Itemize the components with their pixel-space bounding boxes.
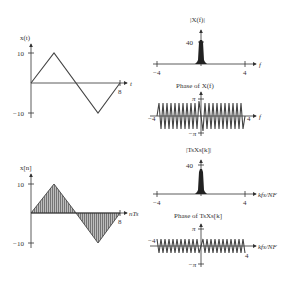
- signal-spectra-figure: x(t) 10 −10 t 8 |X(f)| 40 −4 4 f Phase o…: [0, 0, 292, 285]
- phaseXs-plot: Phase of TsXs[k] π −π −4 4 kfs/NF: [148, 212, 277, 269]
- xn-ytick-10: 10: [17, 181, 25, 189]
- xt-ytick-neg10: −10: [13, 110, 24, 118]
- phaseXs-xtick-4: 4: [245, 252, 249, 260]
- xn-xlabel: nTs: [129, 210, 139, 218]
- phaseXs-xtick-neg4: −4: [148, 237, 156, 245]
- phaseX-ytick-negpi: −π: [188, 130, 197, 138]
- phaseX-plot: Phase of X(f) π −π −4 4 f: [148, 82, 262, 138]
- magX-peak: [195, 40, 207, 64]
- xn-negative-samples: [76, 213, 120, 243]
- phaseX-xtick-4: 4: [247, 115, 251, 123]
- magX-xtick-neg4: −4: [153, 69, 161, 77]
- magXs-xlabel: kfs/NF: [258, 191, 277, 199]
- phaseX-title: Phase of X(f): [176, 82, 214, 90]
- magXs-xtick-4: 4: [243, 199, 247, 207]
- xt-xlabel: t: [130, 80, 133, 88]
- magX-xtick-4: 4: [243, 69, 247, 77]
- phaseXs-ytick-pi: π: [192, 225, 196, 233]
- xn-positive-samples: [31, 184, 76, 213]
- xt-xtick-8: 8: [118, 88, 122, 96]
- magXs-plot: |TsXs[k]| 40 −4 4 kfs/NF: [153, 146, 277, 207]
- xn-xtick-8: 8: [118, 218, 122, 226]
- phaseX-xlabel: f: [259, 113, 262, 121]
- xn-ytick-neg10: −10: [13, 240, 24, 248]
- xn-ylabel: x[n]: [20, 164, 32, 172]
- magXs-ytick-40: 40: [186, 162, 194, 170]
- xt-ytick-10: 10: [17, 50, 25, 58]
- phaseXs-title: Phase of TsXs[k]: [174, 212, 222, 220]
- phaseXs-ytick-negpi: −π: [188, 261, 197, 269]
- magXs-xtick-neg4: −4: [153, 199, 161, 207]
- phaseX-ytick-pi: π: [192, 95, 196, 103]
- magX-title: |X(f)|: [190, 16, 205, 24]
- magX-ytick-40: 40: [186, 39, 194, 47]
- magX-plot: |X(f)| 40 −4 4 f: [153, 16, 262, 77]
- phaseXs-xlabel: kfs/NF: [258, 243, 277, 251]
- magX-xlabel: f: [259, 61, 262, 69]
- xt-plot: x(t) 10 −10 t 8: [13, 34, 133, 118]
- magXs-title: |TsXs[k]|: [186, 146, 211, 154]
- xn-plot: x[n] 10 −10 nTs 8: [13, 164, 139, 248]
- magXs-peak: [195, 169, 207, 194]
- xt-ylabel: x(t): [20, 34, 31, 42]
- phaseX-xtick-neg4: −4: [148, 115, 156, 123]
